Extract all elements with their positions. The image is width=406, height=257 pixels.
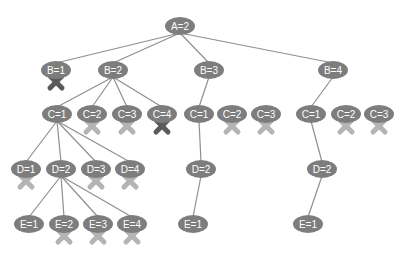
node-label: C=3 xyxy=(257,109,276,120)
tree-node-e4: E=4 xyxy=(117,215,147,233)
node-label: D=2 xyxy=(52,164,71,175)
tree-node-b4e1: E=1 xyxy=(293,215,323,233)
tree-node-b4c2: C=2 xyxy=(331,105,361,123)
tree-edge xyxy=(180,33,333,63)
node-label: C=1 xyxy=(302,109,321,120)
node-label: C=3 xyxy=(118,109,137,120)
tree-node-b3e1: E=1 xyxy=(178,215,208,233)
tree-node-b4c3: C=3 xyxy=(364,105,394,123)
node-label: E=4 xyxy=(123,219,142,230)
node-label: B=3 xyxy=(200,65,219,76)
tree-node-d3: D=3 xyxy=(81,160,111,178)
tree-node-b4: B=4 xyxy=(318,61,348,79)
node-label: C=2 xyxy=(337,109,356,120)
search-tree-diagram: A=2B=1B=2B=3B=4C=1C=2C=3C=4C=1C=2C=3C=1C… xyxy=(0,0,406,257)
tree-node-a2: A=2 xyxy=(165,17,195,35)
tree-edge xyxy=(199,121,201,162)
node-label: B=4 xyxy=(324,65,343,76)
node-label: E=1 xyxy=(20,219,39,230)
tree-node-d1: D=1 xyxy=(11,160,41,178)
tree-node-b3c3: C=3 xyxy=(251,105,281,123)
node-label: E=2 xyxy=(55,219,74,230)
node-label: D=3 xyxy=(87,164,106,175)
tree-edges xyxy=(26,33,333,217)
tree-node-d2: D=2 xyxy=(46,160,76,178)
tree-node-b3c1: C=1 xyxy=(184,105,214,123)
node-label: E=1 xyxy=(184,219,203,230)
tree-edge xyxy=(56,33,180,63)
tree-edge xyxy=(92,77,113,107)
node-label: C=4 xyxy=(153,109,172,120)
node-label: E=1 xyxy=(299,219,318,230)
node-label: C=1 xyxy=(190,109,209,120)
tree-node-b1: B=1 xyxy=(41,61,71,79)
node-label: B=2 xyxy=(104,65,123,76)
node-label: B=1 xyxy=(47,65,66,76)
node-label: D=1 xyxy=(17,164,36,175)
node-label: C=2 xyxy=(223,109,242,120)
tree-node-b2c3: C=3 xyxy=(112,105,142,123)
node-label: D=2 xyxy=(313,164,332,175)
tree-node-b2c1: C=1 xyxy=(42,105,72,123)
tree-node-b3: B=3 xyxy=(194,61,224,79)
tree-node-b2c2: C=2 xyxy=(77,105,107,123)
node-label: E=3 xyxy=(89,219,108,230)
tree-edge xyxy=(311,77,333,107)
tree-node-d4: D=4 xyxy=(115,160,145,178)
tree-node-b3c2: C=2 xyxy=(217,105,247,123)
node-label: C=2 xyxy=(83,109,102,120)
tree-node-b2c4: C=4 xyxy=(147,105,177,123)
node-label: C=3 xyxy=(370,109,389,120)
tree-edge xyxy=(199,77,209,107)
node-label: C=1 xyxy=(48,109,67,120)
tree-node-b4d2: D=2 xyxy=(307,160,337,178)
tree-node-e1: E=1 xyxy=(14,215,44,233)
tree-edge xyxy=(26,121,57,162)
tree-node-b3d2: D=2 xyxy=(186,160,216,178)
node-label: D=4 xyxy=(121,164,140,175)
tree-node-e3: E=3 xyxy=(83,215,113,233)
tree-edge xyxy=(61,176,64,217)
tree-edge xyxy=(308,176,322,217)
node-label: A=2 xyxy=(171,21,190,32)
tree-node-b2: B=2 xyxy=(98,61,128,79)
tree-edge xyxy=(57,121,61,162)
tree-edge xyxy=(311,121,322,162)
tree-nodes: A=2B=1B=2B=3B=4C=1C=2C=3C=4C=1C=2C=3C=1C… xyxy=(11,17,394,233)
tree-node-b4c1: C=1 xyxy=(296,105,326,123)
tree-edge xyxy=(193,176,201,217)
tree-edge xyxy=(29,176,61,217)
tree-edge xyxy=(57,77,113,107)
node-label: D=2 xyxy=(192,164,211,175)
tree-node-e2: E=2 xyxy=(49,215,79,233)
tree-edge xyxy=(113,33,180,63)
